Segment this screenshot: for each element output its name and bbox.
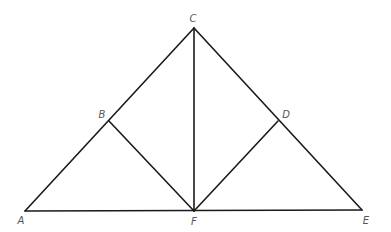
- segment-BF: [109, 121, 194, 211]
- label-E: E: [363, 215, 370, 226]
- segments-group: [25, 28, 362, 211]
- label-F: F: [191, 216, 197, 227]
- segment-DF: [194, 121, 278, 211]
- label-C: C: [190, 13, 197, 24]
- label-B: B: [99, 109, 106, 120]
- label-A: A: [17, 215, 25, 226]
- label-D: D: [282, 109, 290, 120]
- segment-CE: [194, 28, 362, 210]
- geometry-diagram: A B C D E F: [0, 0, 391, 232]
